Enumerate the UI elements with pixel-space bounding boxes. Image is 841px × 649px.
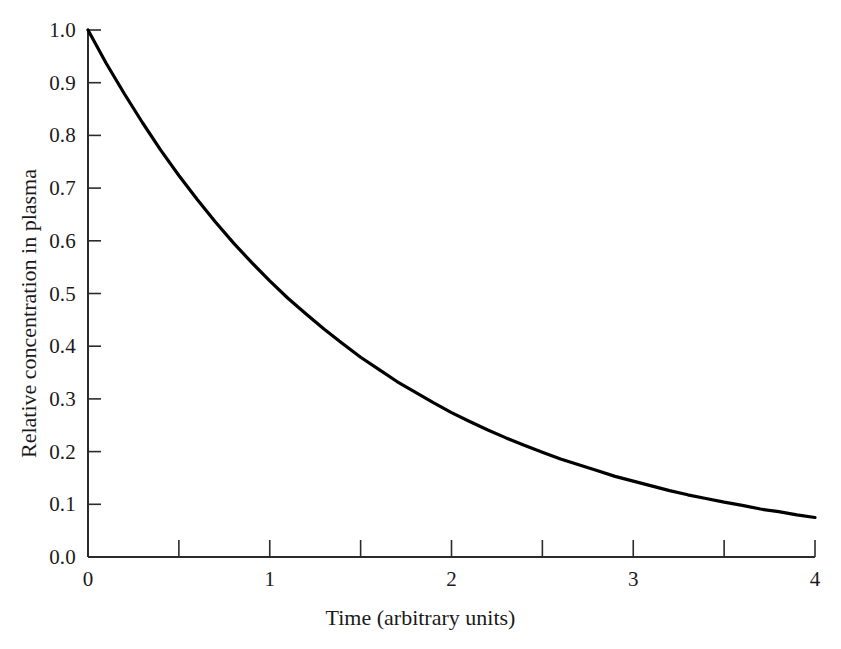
decay-curve-line — [88, 30, 815, 517]
x-tick-label: 2 — [446, 569, 457, 590]
y-tick-label: 0.1 — [49, 494, 76, 515]
x-tick-label: 0 — [83, 569, 94, 590]
x-tick-label: 1 — [264, 569, 275, 590]
x-tick-label: 4 — [810, 569, 821, 590]
y-tick-label: 0.8 — [49, 125, 76, 146]
y-tick-label: 0.0 — [49, 547, 76, 568]
y-tick-label: 0.5 — [49, 283, 76, 304]
y-tick-label: 0.9 — [49, 72, 76, 93]
y-tick-label: 0.6 — [49, 230, 76, 251]
y-axis-ticks — [88, 30, 101, 557]
y-tick-label: 0.7 — [49, 178, 76, 199]
x-tick-label: 3 — [628, 569, 639, 590]
figure-container: 0.00.10.20.30.40.50.60.70.80.91.0 01234 … — [0, 0, 841, 649]
x-axis-title: Time (arbitrary units) — [0, 605, 841, 631]
y-tick-label: 0.4 — [49, 336, 76, 357]
y-axis-title: Relative concentration in plasma — [16, 169, 42, 458]
y-tick-label: 0.2 — [49, 441, 76, 462]
y-tick-label: 0.3 — [49, 388, 76, 409]
y-tick-label: 1.0 — [49, 20, 76, 41]
chart-canvas — [0, 0, 841, 649]
x-axis-ticks — [88, 540, 815, 557]
